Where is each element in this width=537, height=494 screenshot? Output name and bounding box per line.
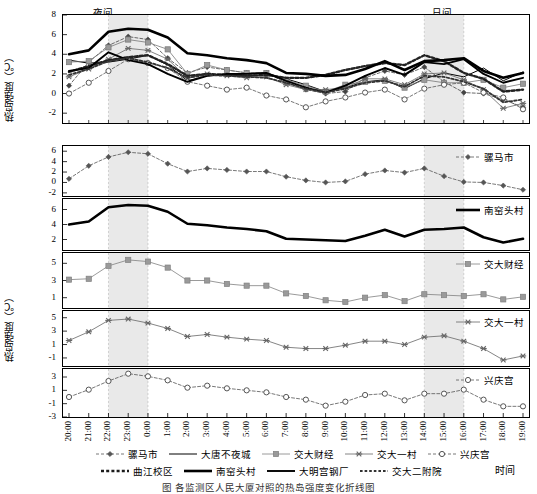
chart-panel-combined [62,14,530,124]
y-tick-label: 1 [34,384,56,394]
legend-swatch-icon [427,449,457,459]
legend-label: 骡马市 [128,447,158,461]
panel-legend-交大财经: 交大财经 [455,257,524,271]
x-tick-label: 5:00 [241,421,251,437]
legend-label: 大明宫钢厂 [299,464,349,478]
x-tick-label: 4:00 [221,421,231,437]
y-tick-label: 4 [34,219,56,229]
legend-swatch-icon [455,317,481,327]
legend-label: 兴庆宫 [460,447,490,461]
legend-swatch-icon [359,466,389,476]
legend-label: 交大一村 [377,447,417,461]
legend-label: 交大二附院 [392,464,442,478]
x-tick-label: 2:00 [181,421,191,437]
x-tick-label: 13:00 [399,421,409,442]
x-tick-label: 14:00 [418,421,428,442]
x-tick-label: 12:00 [379,421,389,442]
legend-swatch-icon [266,466,296,476]
legend-item-曲江校区: 曲江校区 [100,464,173,478]
y-tick-label: 0 [34,176,56,186]
legend-swatch-icon [455,259,481,269]
y-tick-label: 1 [34,339,56,349]
y-tick-label: 3 [34,325,56,335]
x-tick-label: 0:00 [142,421,152,437]
y-tick-label: 5 [34,257,56,267]
y-tick-label: 1 [34,292,56,302]
legend-swatch-icon [95,449,125,459]
x-tick-label: 3:00 [201,421,211,437]
x-tick-label: 15:00 [438,421,448,442]
legend-swatch-icon [455,205,481,215]
y-tick-label: -1 [34,398,56,408]
y-tick-label: 2 [34,234,56,244]
y-tick-label: 3 [34,371,56,381]
legend-item-交大二附院: 交大二附院 [359,464,442,478]
x-tick-label: 23:00 [122,421,132,442]
x-tick-label: 6:00 [260,421,270,437]
legend-swatch-icon [261,449,291,459]
x-tick-label: 10:00 [339,421,349,442]
y-tick-label: 2 [34,68,56,78]
legend-item-交大一村: 交大一村 [344,447,417,461]
y-tick-label: 8 [34,9,56,19]
y-tick-label: 6 [34,145,56,155]
y-tick-label: -2 [34,187,56,197]
x-tick-label: 8:00 [300,421,310,437]
panel-legend-兴庆宫: 兴庆宫 [455,373,514,387]
legend-item-大明宫钢厂: 大明宫钢厂 [266,464,349,478]
panel-legend-交大一村: 交大一村 [455,315,524,329]
legend-label: 交大财经 [294,447,334,461]
panel-legend-label: 南窑头村 [484,203,524,217]
x-tick-label: 1:00 [162,421,172,437]
panel-legend-骡马市: 骡马市 [455,150,514,164]
legend-item-大唐不夜城: 大唐不夜城 [168,447,251,461]
legend-row-2: 曲江校区南窑头村大明宫钢厂交大二附院 [100,464,452,478]
y-tick-label: -3 [34,411,56,421]
x-tick-label: 18:00 [497,421,507,442]
panel-legend-label: 交大一村 [484,315,524,329]
x-tick-label: 22:00 [102,421,112,442]
y-tick-label: 2 [34,166,56,176]
x-tick-label: 11:00 [359,421,369,441]
legend-item-南窑头村: 南窑头村 [183,464,256,478]
x-tick-label: 21:00 [83,421,93,442]
y-tick-label: 4 [34,48,56,58]
legend-label: 曲江校区 [133,464,173,478]
y-tick-label: -1 [34,352,56,362]
y-tick-label: 6 [34,29,56,39]
figure-caption: 图 各监测区人民大厦对照的热岛强度变化折线图 [0,480,537,494]
y-axis-label-top: 热岛强度（℃） [2,22,17,122]
legend-label: 南窑头村 [216,464,256,478]
legend-swatch-icon [344,449,374,459]
y-tick-label: 4 [34,156,56,166]
x-axis-label: 时间 [495,462,515,477]
legend-item-交大财经: 交大财经 [261,447,334,461]
x-tick-label: 20:00 [63,421,73,442]
x-tick-label: 19:00 [517,421,527,442]
legend-item-兴庆宫: 兴庆宫 [427,447,490,461]
y-tick-label: 0 [34,88,56,98]
legend-item-骡马市: 骡马市 [95,447,158,461]
legend-swatch-icon [183,466,213,476]
y-tick-label: 3 [34,275,56,285]
legend-swatch-icon [455,152,481,162]
legend-swatch-icon [168,449,198,459]
x-tick-label: 17:00 [478,421,488,442]
panel-legend-label: 骡马市 [484,150,514,164]
x-tick-label: 9:00 [320,421,330,437]
x-tick-label: 16:00 [458,421,468,442]
panel-legend-南窑头村: 南窑头村 [455,203,524,217]
y-tick-label: 5 [34,312,56,322]
y-axis-label-bottom: 热岛强度（℃） [2,252,17,362]
legend-label: 大唐不夜城 [201,447,251,461]
panel-legend-label: 兴庆宫 [484,373,514,387]
legend-swatch-icon [100,466,130,476]
y-tick-label: 6 [34,204,56,214]
legend-swatch-icon [455,375,481,385]
panel-legend-label: 交大财经 [484,257,524,271]
x-tick-label: 7:00 [280,421,290,437]
legend-row-1: 骡马市大唐不夜城交大财经交大一村兴庆宫 [95,447,500,461]
y-tick-label: -2 [34,107,56,117]
